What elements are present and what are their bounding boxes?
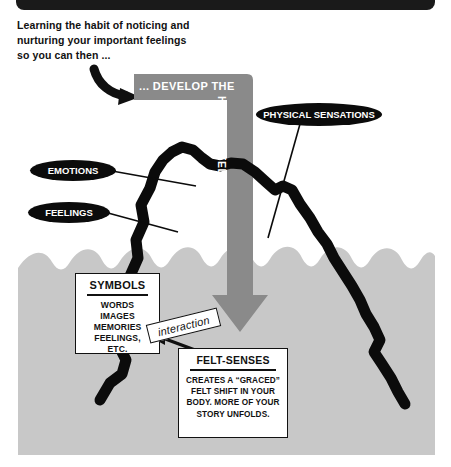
felt-senses-line-1: CREATES A “GRACED” [183, 375, 283, 386]
symbols-line-4: FEELINGS, [76, 333, 159, 344]
band-horizontal-label: ... DEVELOP THE [139, 80, 229, 92]
curved-intro-arrow [94, 69, 140, 105]
felt-senses-box[interactable]: FELT-SENSES CREATES A “GRACED” FELT SHIF… [178, 348, 288, 438]
callout-emotions-label: EMOTIONS [48, 165, 99, 176]
symbols-line-2: IMAGES [76, 311, 159, 322]
callout-emotions[interactable]: EMOTIONS [30, 160, 116, 181]
felt-senses-line-4: STORY UNFOLDS. [183, 409, 283, 420]
felt-senses-box-divider [190, 369, 276, 371]
symbols-box-title: SYMBOLS [76, 279, 159, 291]
callout-feelings[interactable]: FEELINGS [28, 202, 110, 223]
felt-senses-line-2: FELT SHIFT IN YOUR [183, 386, 283, 397]
felt-senses-box-title: FELT-SENSES [179, 354, 287, 366]
felt-senses-line-3: BODY. MORE OF YOUR [183, 397, 283, 408]
symbols-box-divider [87, 294, 148, 296]
symbols-line-5: ETC. [76, 344, 159, 355]
diagram-canvas: Learning the habit of noticing and nurtu… [0, 0, 451, 467]
symbols-line-1: WORDS [76, 300, 159, 311]
callout-physical-sensations-label: PHYSICAL SENSATIONS [263, 109, 375, 120]
callout-physical-sensations[interactable]: PHYSICAL SENSATIONS [256, 103, 382, 126]
symbols-box[interactable]: SYMBOLS WORDS IMAGES MEMORIES FEELINGS, … [75, 273, 160, 354]
callout-feelings-label: FEELINGS [45, 207, 93, 218]
band-vertical-label: HABIT OF FELT-SENSING [216, 96, 228, 237]
felt-senses-box-lines: CREATES A “GRACED” FELT SHIFT IN YOUR BO… [179, 375, 287, 420]
